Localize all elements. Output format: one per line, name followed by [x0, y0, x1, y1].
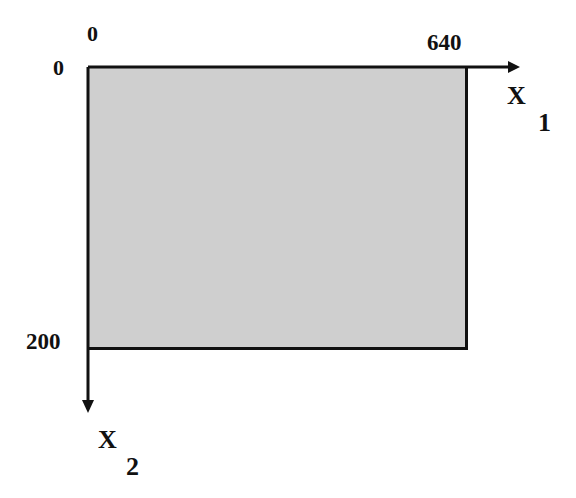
y-max-label: 200 [26, 330, 61, 353]
x2-arrow-icon [82, 400, 94, 413]
x1-arrow-icon [508, 61, 520, 73]
x1-axis-subscript: 1 [538, 110, 551, 136]
axes [0, 0, 576, 498]
x1-axis-name: X [507, 83, 526, 109]
origin-y-label: 0 [53, 57, 64, 79]
origin-x-label: 0 [87, 23, 98, 45]
x2-axis-name: X [98, 427, 117, 453]
x-max-label: 640 [427, 31, 462, 54]
x2-axis-subscript: 2 [126, 454, 139, 480]
